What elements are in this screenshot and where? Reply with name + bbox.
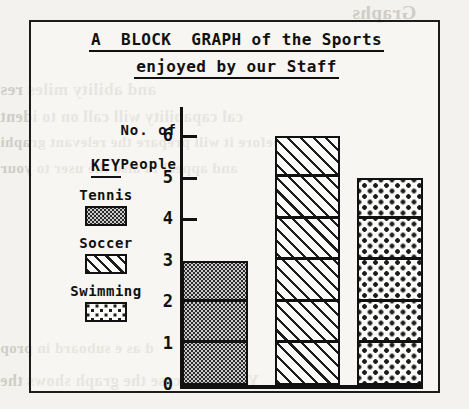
y-axis-tick-label-6: 6 (131, 125, 173, 145)
bar-block-divider (359, 299, 421, 302)
y-axis-tick-label-2: 2 (131, 291, 173, 311)
bar-block-divider (277, 340, 338, 343)
bar-swimming (357, 178, 423, 386)
y-axis-tick-4 (183, 218, 197, 221)
bar-block-divider (359, 257, 421, 260)
bar-tennis (182, 261, 248, 386)
y-axis-tick-label-3: 3 (131, 250, 173, 270)
bar-block-divider (359, 216, 421, 219)
bar-block-divider (277, 216, 338, 219)
chart-plot-area (31, 22, 442, 365)
bar-soccer (275, 136, 340, 385)
y-axis-tick-label-0: 0 (131, 374, 173, 394)
bar-block-divider (277, 174, 338, 177)
y-axis-tick-6 (183, 135, 197, 138)
bar-block-divider (184, 299, 246, 302)
bar-block-divider (184, 340, 246, 343)
y-axis-tick-label-1: 1 (131, 333, 173, 353)
x-axis-baseline (180, 385, 423, 389)
y-axis-line (180, 107, 183, 388)
bar-block-divider (359, 340, 421, 343)
y-axis-tick-5 (183, 177, 197, 180)
bar-block-divider (277, 299, 338, 302)
bar-block-divider (277, 257, 338, 260)
block-graph-figure: A BLOCK GRAPH of the Sports enjoyed by o… (29, 20, 440, 393)
y-axis-tick-label-5: 5 (131, 167, 173, 187)
y-axis-tick-label-4: 4 (131, 208, 173, 228)
